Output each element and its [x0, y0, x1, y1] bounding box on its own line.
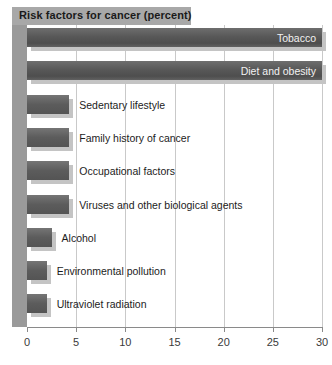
x-axis-tick-label: 10: [110, 336, 140, 348]
x-axis-tick-label: 5: [61, 336, 91, 348]
bar-label: Alcohol: [62, 232, 96, 244]
bar-label: Diet and obesity: [0, 65, 316, 77]
x-axis-tick-label: 15: [160, 336, 190, 348]
x-axis-tick-label: 0: [12, 336, 42, 348]
x-axis-tick-label: 25: [258, 336, 288, 348]
bar: [27, 128, 69, 147]
bar-label: Occupational factors: [79, 165, 175, 177]
x-axis-tick: [175, 327, 176, 332]
chart-title: Risk factors for cancer (percent): [19, 9, 192, 21]
bar: [27, 195, 69, 214]
x-axis-tick: [27, 327, 28, 332]
x-axis-tick: [224, 327, 225, 332]
x-axis-tick: [76, 327, 77, 332]
bar: [27, 95, 69, 114]
bar-label: Sedentary lifestyle: [79, 99, 165, 111]
x-axis-tick: [125, 327, 126, 332]
bar-label: Viruses and other biological agents: [79, 199, 242, 211]
x-axis-tick-label: 30: [307, 336, 332, 348]
left-accent-band: [12, 7, 27, 327]
bar: [27, 228, 52, 247]
x-axis-tick-label: 20: [209, 336, 239, 348]
bar: [27, 161, 69, 180]
bar-label: Family history of cancer: [79, 132, 190, 144]
x-axis-tick: [322, 327, 323, 332]
bar: [27, 294, 47, 313]
x-axis-tick: [273, 327, 274, 332]
bar: [27, 261, 47, 280]
bar-label: Ultraviolet radiation: [57, 298, 147, 310]
bar-label: Tobacco: [0, 32, 316, 44]
bar-label: Environmental pollution: [57, 265, 166, 277]
risk-factors-bar-chart: Risk factors for cancer (percent) 051015…: [0, 0, 332, 365]
